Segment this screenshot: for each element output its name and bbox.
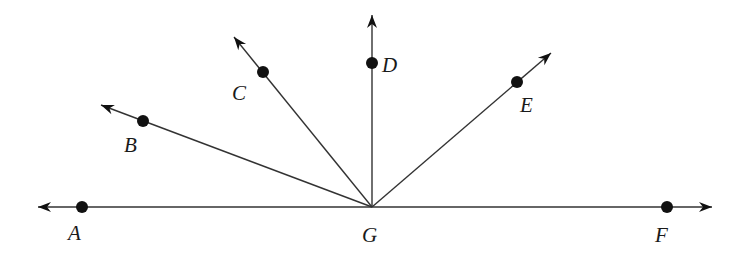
point-c: [257, 66, 269, 78]
arrowhead-c-icon: [234, 37, 246, 50]
point-b: [137, 115, 149, 127]
point-d: [366, 57, 378, 69]
point-a: [76, 201, 88, 213]
point-f: [661, 201, 673, 213]
label-f: F: [654, 223, 668, 247]
geometry-diagram: ABCDEFG: [0, 0, 740, 254]
point-e: [511, 76, 523, 88]
label-e: E: [519, 93, 533, 117]
label-g: G: [362, 223, 377, 247]
label-a: A: [66, 221, 81, 245]
ray-e: [372, 53, 551, 207]
label-d: D: [381, 53, 397, 77]
rays-diagram-svg: ABCDEFG: [0, 0, 740, 254]
label-b: B: [124, 133, 137, 157]
label-c: C: [232, 81, 247, 105]
